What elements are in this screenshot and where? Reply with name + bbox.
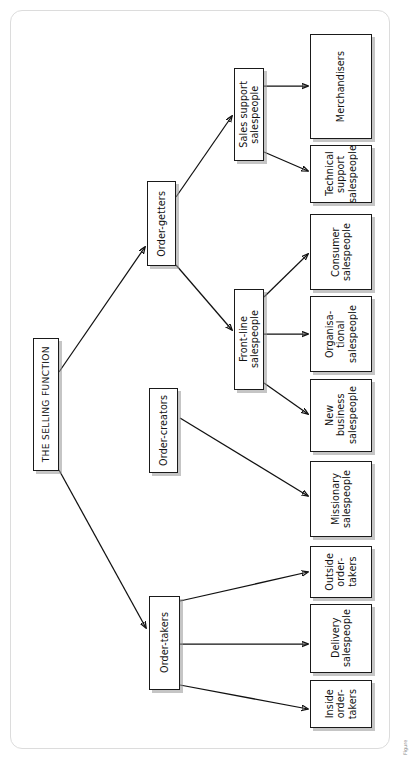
node-order-creators[interactable]: Order-creators <box>149 388 178 473</box>
node-missionary-salespeople[interactable]: Missionary salespeople <box>310 461 372 537</box>
edge-root-to-order-getters <box>59 247 145 372</box>
node-order-takers[interactable]: Order-takers <box>149 596 180 690</box>
edge-order-takers-to-inside-order-takers <box>180 685 308 709</box>
node-label: New business salespeople <box>324 386 358 444</box>
node-label: Delivery salespeople <box>330 609 353 667</box>
node-label: Organisa- tional salespeople <box>324 305 358 363</box>
node-front-line-salespeople[interactable]: Front-line salespeople <box>234 289 264 390</box>
edge-sales-support-to-technical-support <box>264 152 308 171</box>
node-label: Consumer salespeople <box>330 223 353 281</box>
node-label: Order-takers <box>159 612 170 673</box>
node-new-business-salespeople[interactable]: New business salespeople <box>310 379 372 452</box>
figure-caption: Figure <box>402 695 412 755</box>
node-label: Merchandisers <box>335 51 346 122</box>
node-label: Technical support salespeople <box>324 145 358 203</box>
node-organisational-salespeople[interactable]: Organisa- tional salespeople <box>310 296 372 372</box>
node-delivery-salespeople[interactable]: Delivery salespeople <box>310 604 372 673</box>
edge-order-creators-to-missionary <box>180 418 308 496</box>
node-inside-order-takers[interactable]: Inside order- takers <box>310 680 372 728</box>
node-merchandisers[interactable]: Merchandisers <box>310 34 372 139</box>
node-label: Front-line salespeople <box>238 310 261 368</box>
edge-front-line-to-new-business <box>264 383 308 414</box>
node-label: Order-creators <box>158 395 169 466</box>
node-outside-order-takers[interactable]: Outside order- takers <box>310 546 372 598</box>
node-sales-support-salespeople[interactable]: Sales support salespeople <box>234 68 264 161</box>
edge-order-getters-to-front-line <box>176 265 232 330</box>
node-label: Sales support salespeople <box>238 81 261 148</box>
edge-front-line-to-consumer <box>264 254 308 297</box>
edge-order-getters-to-sales-support <box>176 116 232 197</box>
org-chart-canvas: THE SELLING FUNCTION Order-getters Order… <box>0 0 413 759</box>
edge-root-to-order-takers <box>59 470 146 628</box>
node-label: Outside order- takers <box>324 553 358 591</box>
node-technical-support-salespeople[interactable]: Technical support salespeople <box>310 145 372 203</box>
node-label: Inside order- takers <box>324 689 358 719</box>
node-label: Order-getters <box>156 191 167 257</box>
node-consumer-salespeople[interactable]: Consumer salespeople <box>310 214 372 290</box>
node-label: Missionary salespeople <box>330 470 353 528</box>
edge-order-takers-to-outside-order-takers <box>180 572 308 601</box>
node-the-selling-function[interactable]: THE SELLING FUNCTION <box>33 338 59 471</box>
node-order-getters[interactable]: Order-getters <box>147 181 176 266</box>
node-label: THE SELLING FUNCTION <box>41 346 52 462</box>
